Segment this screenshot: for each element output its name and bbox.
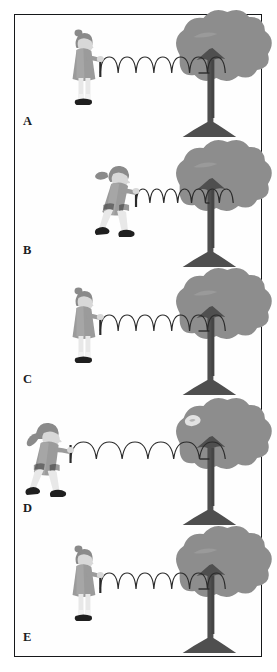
girl-c: [73, 288, 104, 363]
panel-b-scene: [15, 143, 261, 273]
panel-e: E: [15, 531, 261, 658]
tree-canopy-d: [176, 398, 272, 469]
panel-c: C: [15, 273, 261, 401]
girl-e: [73, 546, 104, 621]
girl-a: [73, 30, 104, 105]
panel-c-scene: [15, 273, 261, 401]
panel-a: A: [15, 15, 261, 143]
girl-d: [25, 423, 74, 497]
girl-b: [95, 166, 140, 237]
panel-e-scene: [15, 531, 261, 658]
panel-b: B: [15, 143, 261, 273]
panel-d: D: [15, 401, 261, 531]
panel-a-scene: [15, 15, 261, 143]
panel-d-scene: [15, 401, 261, 531]
figure-frame: A: [14, 14, 262, 657]
figure-root: A: [0, 0, 277, 672]
tree-canopy-b: [176, 140, 272, 211]
